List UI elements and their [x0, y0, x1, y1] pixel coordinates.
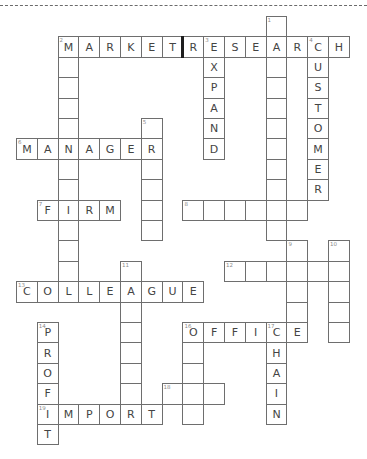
crossword-cell[interactable]: I	[266, 383, 288, 404]
crossword-cell[interactable]: O	[99, 404, 121, 425]
crossword-cell[interactable]	[120, 322, 142, 343]
crossword-cell[interactable]: F	[203, 322, 225, 343]
crossword-cell[interactable]	[120, 342, 142, 363]
crossword-cell[interactable]: E	[245, 36, 267, 57]
crossword-cell[interactable]	[141, 200, 163, 221]
crossword-cell[interactable]: R	[141, 138, 163, 159]
crossword-cell[interactable]: H	[328, 36, 350, 57]
crossword-cell[interactable]: R	[120, 404, 142, 425]
crossword-cell[interactable]: 9	[286, 240, 308, 261]
crossword-cell[interactable]	[266, 200, 288, 221]
crossword-cell[interactable]: 17C	[266, 322, 288, 343]
crossword-cell[interactable]	[266, 57, 288, 78]
crossword-cell[interactable]: L	[78, 281, 100, 302]
crossword-cell[interactable]	[58, 179, 80, 200]
crossword-cell[interactable]	[58, 98, 80, 119]
crossword-cell[interactable]	[328, 261, 350, 282]
crossword-cell[interactable]: 10	[328, 240, 350, 261]
crossword-cell[interactable]: 19I	[37, 404, 59, 425]
crossword-cell[interactable]	[58, 261, 80, 282]
crossword-cell[interactable]: H	[266, 342, 288, 363]
crossword-cell[interactable]	[58, 240, 80, 261]
crossword-cell[interactable]	[245, 200, 267, 221]
crossword-cell[interactable]	[286, 200, 308, 221]
crossword-cell[interactable]	[58, 220, 80, 241]
crossword-cell[interactable]: M	[307, 138, 329, 159]
crossword-cell[interactable]: 7F	[37, 200, 59, 221]
crossword-cell[interactable]: R	[99, 36, 121, 57]
crossword-cell[interactable]	[266, 159, 288, 180]
crossword-cell[interactable]	[266, 118, 288, 139]
crossword-cell[interactable]	[182, 363, 204, 384]
crossword-cell[interactable]: 6M	[16, 138, 38, 159]
crossword-cell[interactable]: K	[120, 36, 142, 57]
crossword-cell[interactable]: F	[224, 322, 246, 343]
crossword-cell[interactable]: O	[37, 281, 59, 302]
crossword-cell[interactable]: X	[203, 57, 225, 78]
crossword-cell[interactable]	[141, 220, 163, 241]
crossword-cell[interactable]: G	[99, 138, 121, 159]
crossword-cell[interactable]	[286, 261, 308, 282]
crossword-cell[interactable]: F	[37, 383, 59, 404]
crossword-cell[interactable]: T	[141, 404, 163, 425]
crossword-cell[interactable]	[328, 322, 350, 343]
crossword-cell[interactable]	[328, 302, 350, 323]
crossword-cell[interactable]	[203, 200, 225, 221]
crossword-cell[interactable]: E	[307, 159, 329, 180]
crossword-cell[interactable]: A	[78, 138, 100, 159]
crossword-cell[interactable]: S	[307, 77, 329, 98]
crossword-cell[interactable]: R	[286, 36, 308, 57]
crossword-cell[interactable]: 8	[182, 200, 204, 221]
crossword-cell[interactable]: T	[307, 98, 329, 119]
crossword-cell[interactable]: L	[58, 281, 80, 302]
crossword-cell[interactable]	[266, 138, 288, 159]
crossword-cell[interactable]	[182, 404, 204, 425]
crossword-cell[interactable]	[120, 363, 142, 384]
crossword-cell[interactable]: 13C	[16, 281, 38, 302]
crossword-cell[interactable]: A	[203, 98, 225, 119]
crossword-cell[interactable]: 2M	[58, 36, 80, 57]
crossword-cell[interactable]: 11	[120, 261, 142, 282]
crossword-cell[interactable]: I	[58, 200, 80, 221]
crossword-cell[interactable]: R	[37, 342, 59, 363]
crossword-cell[interactable]: A	[78, 36, 100, 57]
crossword-cell[interactable]: A	[37, 138, 59, 159]
crossword-cell[interactable]: G	[141, 281, 163, 302]
crossword-cell[interactable]	[286, 302, 308, 323]
crossword-cell[interactable]: D	[203, 138, 225, 159]
crossword-cell[interactable]: P	[203, 77, 225, 98]
crossword-cell[interactable]: N	[203, 118, 225, 139]
crossword-cell[interactable]: I	[245, 322, 267, 343]
crossword-cell[interactable]	[58, 57, 80, 78]
crossword-cell[interactable]	[120, 383, 142, 404]
crossword-cell[interactable]: 18	[162, 383, 184, 404]
crossword-cell[interactable]	[307, 261, 329, 282]
crossword-cell[interactable]: U	[162, 281, 184, 302]
crossword-cell[interactable]	[141, 179, 163, 200]
crossword-cell[interactable]: 14P	[37, 322, 59, 343]
crossword-cell[interactable]: M	[99, 200, 121, 221]
crossword-cell[interactable]	[182, 383, 204, 404]
crossword-cell[interactable]: N	[266, 404, 288, 425]
crossword-cell[interactable]	[141, 159, 163, 180]
crossword-cell[interactable]: 3E	[203, 36, 225, 57]
crossword-cell[interactable]	[266, 77, 288, 98]
crossword-cell[interactable]	[266, 220, 288, 241]
crossword-cell[interactable]: E	[120, 138, 142, 159]
crossword-cell[interactable]	[203, 383, 225, 404]
crossword-cell[interactable]	[266, 98, 288, 119]
crossword-cell[interactable]: P	[78, 404, 100, 425]
crossword-cell[interactable]: E	[141, 36, 163, 57]
crossword-cell[interactable]	[58, 118, 80, 139]
crossword-cell[interactable]: E	[286, 322, 308, 343]
crossword-cell[interactable]: R	[307, 179, 329, 200]
crossword-cell[interactable]: U	[307, 57, 329, 78]
crossword-cell[interactable]	[286, 281, 308, 302]
crossword-cell[interactable]: R	[182, 36, 204, 57]
crossword-cell[interactable]: O	[307, 118, 329, 139]
crossword-cell[interactable]: 16O	[182, 322, 204, 343]
crossword-cell[interactable]	[58, 77, 80, 98]
crossword-cell[interactable]: 12	[224, 261, 246, 282]
crossword-cell[interactable]	[58, 159, 80, 180]
crossword-cell[interactable]: A	[266, 36, 288, 57]
